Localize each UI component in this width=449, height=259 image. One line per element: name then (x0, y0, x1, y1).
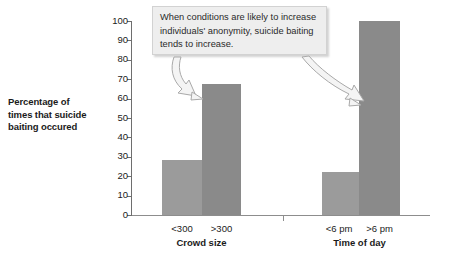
group-separator-tick (283, 215, 284, 221)
y-tick-label-10: 10 (106, 189, 128, 200)
annotation-callout: When conditions are likely to increase i… (152, 6, 327, 55)
y-axis-label: Percentage of times that suicide baiting… (8, 96, 108, 134)
category-label-before-6pm: <6 pm (319, 223, 359, 234)
bar-crowd-size-over-300 (202, 84, 241, 215)
y-tick-label-80: 80 (106, 53, 128, 64)
category-label-after-6pm: >6 pm (359, 223, 400, 234)
annotation-line-2: individuals' anonymity, suicide baiting (160, 25, 320, 39)
y-axis-label-line-1: Percentage of (8, 96, 108, 109)
category-label-over-300: >300 (202, 223, 241, 234)
y-axis-label-line-3: baiting occured (8, 121, 108, 134)
x-axis-line (131, 215, 430, 216)
annotation-line-1: When conditions are likely to increase (160, 11, 320, 25)
y-tick-label-100: 100 (106, 15, 128, 26)
group-label-time-of-day: Time of day (319, 237, 400, 248)
y-tick-label-70: 70 (106, 73, 128, 84)
y-tick-label-50: 50 (106, 112, 128, 123)
y-tick-label-90: 90 (106, 34, 128, 45)
annotation-line-3: tends to increase. (160, 38, 320, 52)
y-axis-label-line-2: times that suicide (8, 109, 108, 122)
y-tick-label-40: 40 (106, 131, 128, 142)
bar-time-of-day-before-6pm (322, 172, 359, 215)
y-tick-label-30: 30 (106, 150, 128, 161)
y-tick-label-60: 60 (106, 92, 128, 103)
bar-crowd-size-under-300 (162, 160, 202, 215)
category-label-under-300: <300 (162, 223, 202, 234)
group-label-crowd-size: Crowd size (161, 237, 242, 248)
y-tick-label-0: 0 (106, 209, 128, 220)
bar-chart-figure: Percentage of times that suicide baiting… (0, 0, 449, 259)
y-tick-label-20: 20 (106, 170, 128, 181)
bar-time-of-day-after-6pm (359, 21, 400, 215)
